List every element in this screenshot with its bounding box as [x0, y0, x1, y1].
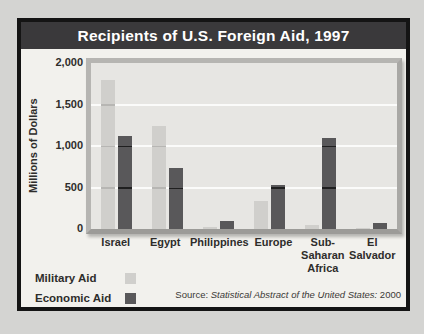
- legend-swatch-military-aid: [125, 273, 136, 284]
- plot-area: [91, 63, 397, 229]
- gridline-500: [91, 187, 397, 189]
- legend-swatch-economic-aid: [125, 293, 136, 304]
- y-axis-title: Millions of Dollars: [25, 63, 41, 229]
- x-label-line: Africa: [298, 262, 347, 275]
- bar-economic-aid-europe: [271, 185, 285, 229]
- bar-economic-aid-sub-saharan-africa: [322, 138, 336, 229]
- x-label-philippines: Philippines: [190, 236, 249, 268]
- y-tick-1000: 1,000: [41, 139, 83, 151]
- bar-military-aid-europe: [254, 201, 268, 229]
- y-axis-ticks: 05001,0001,5002,000: [41, 63, 83, 229]
- legend-row-military-aid: Military Aid: [35, 268, 136, 288]
- legend: Military AidEconomic Aid: [35, 268, 136, 308]
- legend-label-economic-aid: Economic Aid: [35, 292, 113, 304]
- x-label-line: Philippines: [190, 236, 249, 249]
- x-label-europe: Europe: [249, 236, 298, 268]
- source-prefix: Source:: [175, 289, 210, 300]
- plot-frame: [86, 58, 402, 234]
- bar-economic-aid-israel: [118, 136, 132, 229]
- x-label-egypt: Egypt: [140, 236, 189, 268]
- bar-military-aid-sub-saharan-africa: [305, 225, 319, 229]
- x-label-line: Sub-Saharan: [298, 236, 347, 262]
- bar-military-aid-el-salvador: [356, 228, 370, 229]
- x-label-israel: Israel: [91, 236, 140, 268]
- chart-title: Recipients of U.S. Foreign Aid, 1997: [21, 22, 406, 49]
- x-label-line: Salvador: [348, 249, 397, 262]
- bar-economic-aid-el-salvador: [373, 223, 387, 229]
- y-tick-2000: 2,000: [41, 56, 83, 68]
- source-title: Statistical Abstract of the United State…: [211, 289, 378, 300]
- x-axis-labels: IsraelEgyptPhilippinesEuropeSub-SaharanA…: [91, 236, 397, 268]
- source-note: Source: Statistical Abstract of the Unit…: [161, 289, 401, 300]
- x-label-el-salvador: ElSalvador: [348, 236, 397, 268]
- gridline-1500: [91, 104, 397, 106]
- x-label-sub-saharan-africa: Sub-SaharanAfrica: [298, 236, 347, 268]
- legend-label-military-aid: Military Aid: [35, 272, 113, 284]
- bar-military-aid-philippines: [203, 227, 217, 229]
- chart-card: Recipients of U.S. Foreign Aid, 1997 Mil…: [17, 18, 410, 311]
- bar-military-aid-israel: [101, 80, 115, 229]
- y-tick-500: 500: [41, 181, 83, 193]
- page-background: Recipients of U.S. Foreign Aid, 1997 Mil…: [0, 0, 424, 334]
- gridline-1000: [91, 145, 397, 147]
- y-tick-0: 0: [41, 222, 83, 234]
- bar-military-aid-egypt: [152, 126, 166, 229]
- bar-economic-aid-philippines: [220, 221, 234, 229]
- x-label-line: El: [348, 236, 397, 249]
- bar-economic-aid-egypt: [169, 168, 183, 229]
- x-label-line: Europe: [249, 236, 298, 249]
- y-tick-1500: 1,500: [41, 98, 83, 110]
- legend-row-economic-aid: Economic Aid: [35, 288, 136, 308]
- x-label-line: Egypt: [140, 236, 189, 249]
- x-label-line: Israel: [91, 236, 140, 249]
- source-year: 2000: [377, 289, 401, 300]
